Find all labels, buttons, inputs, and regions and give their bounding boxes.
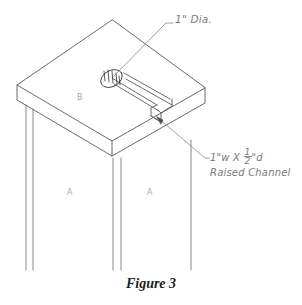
hole-thread-line-4 [116, 73, 117, 84]
channel-depth-unit-text: "d [252, 152, 263, 163]
channel-width-text: 1"w X [210, 152, 244, 163]
raised-channel-label: 1"w X 12"d Raised Channel [210, 150, 291, 180]
channel-inner-step-edge [159, 111, 161, 113]
channel-label-line-2: Raised Channel [210, 166, 291, 180]
channel-label-line-1: 1"w X 12"d [210, 150, 291, 166]
channel-depth-fraction: 12 [244, 149, 252, 165]
drilled-hole-detail [98, 66, 126, 91]
leader-channel-to-label [157, 117, 209, 158]
table-legs [26, 105, 191, 270]
hole-thread-line-1 [104, 71, 105, 81]
hole-thread-line-2 [108, 70, 109, 82]
table-top-front-left-edge [17, 85, 112, 156]
figure-caption: Figure 3 [0, 276, 302, 292]
table-top-upper-face-outline [17, 20, 205, 141]
figure-container: 1" Dia. 1"w X 12"d Raised Channel B A A … [0, 0, 302, 305]
hole-diameter-label: 1" Dia. [175, 13, 212, 25]
hole-thread-line-5 [119, 76, 120, 85]
leader-lines [113, 23, 209, 158]
part-label-leg-right-a: A [147, 188, 152, 197]
channel-left-wall [112, 78, 157, 105]
channel-end-step [151, 99, 172, 122]
part-label-leg-left-a: A [67, 188, 72, 197]
hole-opening-ellipse [98, 66, 126, 91]
leader-hole-to-label [113, 23, 173, 77]
part-label-top-b: B [77, 93, 83, 102]
fraction-denominator: 2 [244, 157, 252, 165]
channel-right-wall-lower [126, 79, 172, 105]
table-top-solid [17, 20, 205, 156]
channel-right-wall-upper [124, 73, 170, 99]
